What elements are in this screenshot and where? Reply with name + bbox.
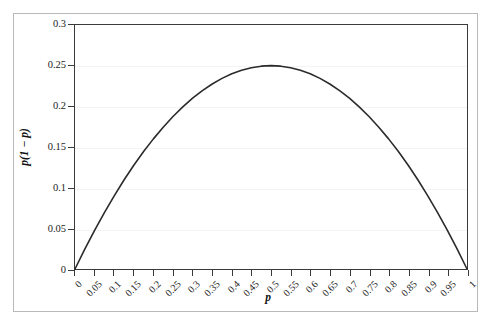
x-axis-tick <box>212 270 213 276</box>
x-axis-tick <box>271 270 272 276</box>
y-axis-tick-label: 0.05 <box>24 224 66 235</box>
x-axis-tick <box>94 270 95 276</box>
y-axis-tick-label: 0.2 <box>24 101 66 112</box>
x-axis-tick <box>429 270 430 276</box>
x-axis-tick <box>232 270 233 276</box>
series-line-p-times-one-minus-p <box>75 66 467 269</box>
x-axis-tick <box>133 270 134 276</box>
x-axis-tick <box>173 270 174 276</box>
x-axis-tick <box>192 270 193 276</box>
x-axis-tick <box>350 270 351 276</box>
curve-svg <box>75 25 467 269</box>
y-axis-tick-label: 0.15 <box>24 142 66 153</box>
chart-figure: 00.050.10.150.20.250.3 00.050.10.150.20.… <box>0 0 492 326</box>
x-axis-tick <box>153 270 154 276</box>
y-axis-tick-label: 0.3 <box>24 19 66 30</box>
x-axis-tick <box>389 270 390 276</box>
x-axis-tick <box>448 270 449 276</box>
x-axis-tick <box>113 270 114 276</box>
y-axis-title: p(1 − p) <box>18 128 30 166</box>
y-axis-tick-label: 0.25 <box>24 60 66 71</box>
y-axis-tick <box>68 147 74 148</box>
y-axis-tick <box>68 188 74 189</box>
x-axis-tick <box>330 270 331 276</box>
x-axis-tick <box>310 270 311 276</box>
x-axis-tick <box>251 270 252 276</box>
x-axis-tick <box>370 270 371 276</box>
x-axis-tick <box>409 270 410 276</box>
y-axis-tick <box>68 24 74 25</box>
y-axis-tick <box>68 106 74 107</box>
y-axis-tick-label: 0.1 <box>24 183 66 194</box>
y-axis-tick <box>68 65 74 66</box>
y-axis-tick-label: 0 <box>24 265 66 276</box>
x-axis-title-text: p <box>221 291 271 303</box>
x-axis-title: p <box>0 291 492 303</box>
x-axis-tick <box>468 270 469 276</box>
x-axis-tick <box>74 270 75 276</box>
x-axis-tick <box>291 270 292 276</box>
y-axis-tick <box>68 229 74 230</box>
plot-area <box>74 24 468 270</box>
